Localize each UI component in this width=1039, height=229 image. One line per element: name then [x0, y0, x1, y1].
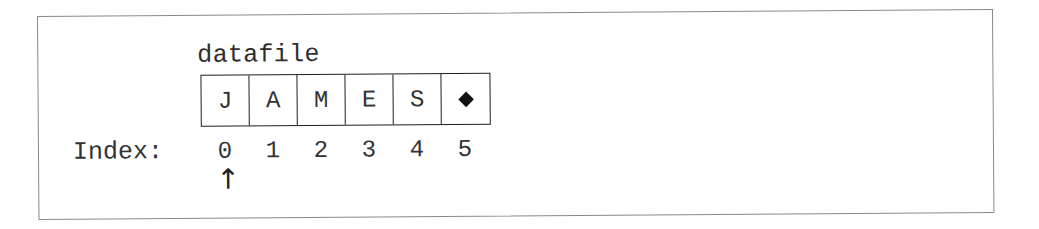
file-cell-5 — [441, 74, 489, 124]
index-number: 1 — [249, 137, 297, 165]
index-number: 0 — [201, 137, 249, 165]
diagram-stage: datafile J A M E S Index: 0 1 2 3 4 5 ↑ — [0, 0, 1039, 229]
diagram-frame — [37, 9, 994, 220]
cell-char: E — [362, 86, 377, 113]
file-cell-0: J — [201, 75, 249, 125]
cell-char: S — [410, 86, 425, 113]
index-number: 5 — [441, 136, 489, 164]
end-of-file-marker-icon — [458, 91, 474, 107]
index-number: 2 — [297, 137, 345, 165]
index-label: Index: — [73, 138, 163, 167]
variable-name-label: datafile — [197, 41, 320, 70]
cell-char: M — [314, 86, 329, 113]
index-numbers-row: 0 1 2 3 4 5 — [201, 136, 489, 166]
file-cell-2: M — [297, 75, 345, 125]
index-number: 4 — [393, 136, 441, 164]
file-cell-3: E — [345, 74, 393, 124]
up-arrow-pointer-icon: ↑ — [216, 165, 240, 195]
cell-char: J — [218, 87, 233, 114]
file-cell-1: A — [249, 75, 297, 125]
cell-char: A — [266, 87, 281, 114]
index-number: 3 — [345, 136, 393, 164]
file-cell-4: S — [393, 74, 441, 124]
file-cells-array: J A M E S — [200, 73, 490, 127]
